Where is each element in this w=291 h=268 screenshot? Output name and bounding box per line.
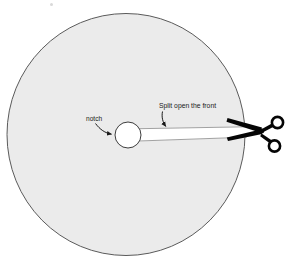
scissors-lower-ring [269,140,280,151]
scissors-upper-ring [272,117,283,128]
diagram-canvas: notch Split open the front [0,0,291,268]
center-notch-hole [115,122,141,148]
split-open-the-front-label: Split open the front [159,103,216,110]
disc-split-diagram [0,0,291,268]
stray-speck [50,3,53,6]
notch-label: notch [86,116,102,123]
